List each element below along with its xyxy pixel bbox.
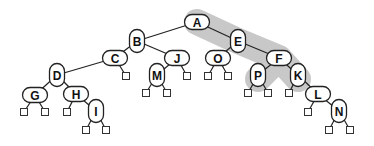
- node-label: J: [174, 52, 181, 66]
- tree-node-E: E: [231, 30, 246, 53]
- tree-node-L: L: [306, 87, 331, 102]
- null-leaf-box: [64, 109, 71, 116]
- null-leaf-box: [83, 127, 90, 134]
- tree-node-H: H: [64, 87, 89, 102]
- node-label: K: [294, 69, 303, 83]
- null-leaf-box: [205, 73, 212, 80]
- node-label: P: [254, 69, 262, 83]
- null-leaf-box: [245, 90, 252, 97]
- tree-node-O: O: [206, 51, 231, 66]
- node-label: H: [72, 88, 81, 102]
- tree-node-G: G: [23, 88, 48, 103]
- null-leaf-box: [184, 73, 191, 80]
- node-label: C: [111, 52, 120, 66]
- node-label: A: [193, 16, 202, 30]
- null-leaf-box: [123, 73, 130, 80]
- tree-node-D: D: [50, 64, 65, 87]
- tree-node-M: M: [150, 64, 165, 87]
- node-label: M: [152, 69, 162, 83]
- null-leaf-box: [305, 109, 312, 116]
- tree-node-K: K: [291, 64, 306, 87]
- node-label: L: [314, 88, 321, 102]
- tree-node-N: N: [332, 100, 347, 123]
- node-label: N: [335, 105, 344, 119]
- tree-node-B: B: [130, 30, 145, 53]
- binary-tree-diagram: ABECJOFDMPKGHLIN: [0, 0, 374, 146]
- tree-node-F: F: [267, 51, 292, 66]
- node-label: B: [133, 35, 142, 49]
- null-leaf-box: [164, 90, 171, 97]
- tree-node-A: A: [185, 15, 210, 30]
- null-leaf-box: [326, 127, 333, 134]
- null-leaf-box: [347, 127, 354, 134]
- node-label: F: [275, 52, 282, 66]
- null-leaf-box: [42, 109, 49, 116]
- node-label: I: [94, 105, 97, 119]
- null-leaf-box: [286, 90, 293, 97]
- node-label: O: [213, 52, 222, 66]
- node-label: G: [30, 89, 39, 103]
- tree-node-I: I: [89, 100, 104, 123]
- null-leaf-box: [103, 127, 110, 134]
- node-label: D: [53, 69, 62, 83]
- tree-node-J: J: [165, 51, 190, 66]
- node-label: E: [234, 35, 242, 49]
- null-leaf-box: [143, 90, 150, 97]
- tree-nodes: ABECJOFDMPKGHLIN: [23, 15, 347, 123]
- null-leaf-box: [265, 90, 272, 97]
- tree-node-P: P: [251, 64, 266, 87]
- null-leaf-box: [21, 109, 28, 116]
- tree-node-C: C: [103, 51, 128, 66]
- null-leaf-box: [225, 73, 232, 80]
